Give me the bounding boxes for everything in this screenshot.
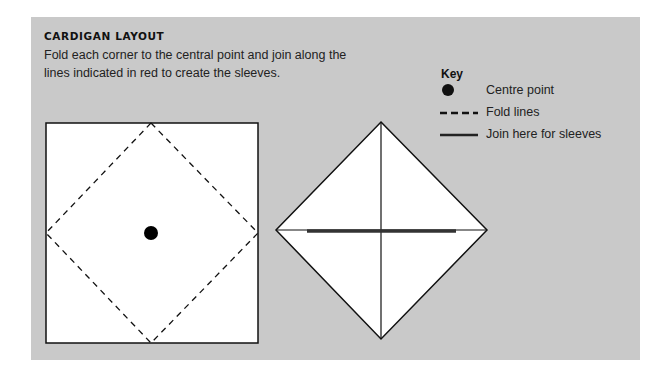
folded-diamond [276, 122, 487, 339]
flat-layout-square [46, 123, 258, 343]
centre-point-icon [144, 226, 158, 240]
key-dot-icon [442, 84, 454, 96]
diagram-canvas [0, 0, 666, 370]
